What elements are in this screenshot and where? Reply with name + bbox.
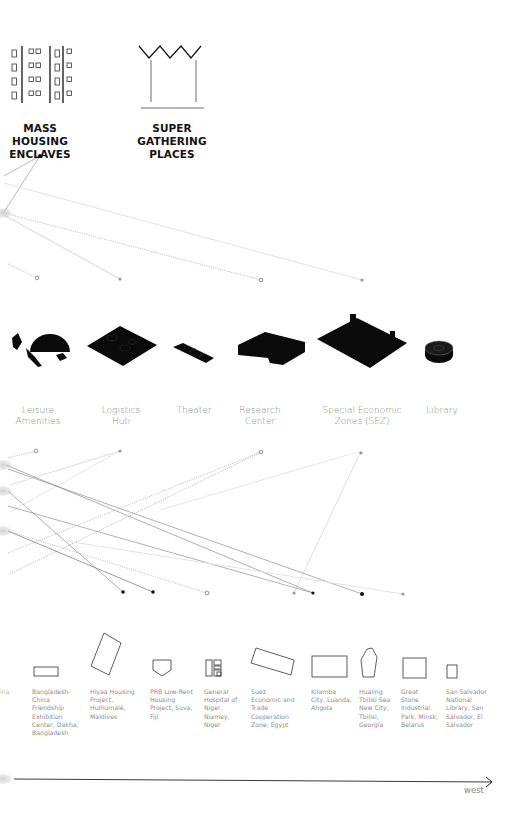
type-label-line: Hub <box>91 416 151 427</box>
project-label: ina <box>0 688 30 696</box>
category-title-line: ENCLAVES <box>0 148 86 161</box>
category-title-line: PLACES <box>116 148 228 161</box>
axis-label-west: west <box>464 785 484 795</box>
housing-block-icon <box>0 38 80 118</box>
project-label: San Salvador National Library, San Salva… <box>446 688 502 729</box>
type-label-sez: Special Economic Zones (SEZ) <box>316 405 408 427</box>
project-label: Suez Economic and Trade Cooperation Zone… <box>251 688 307 729</box>
lower-connectors <box>6 449 405 596</box>
type-label-research: Research Center <box>230 405 290 427</box>
project-label: Great Stone Industrial Park, Minsk, Bela… <box>401 688 445 729</box>
upper-connectors <box>4 154 364 282</box>
type-label-line: Amenities <box>8 416 68 427</box>
type-label-line: Library <box>412 405 472 416</box>
building-type-icons-row <box>0 300 508 380</box>
research-center-icon <box>238 332 305 365</box>
project-label: PRB Low-Rent Housing Project, Suva, Fiji <box>150 688 202 721</box>
category-title-line: SUPER GATHERING <box>116 122 228 148</box>
type-label-line: Leisure <box>8 405 68 416</box>
type-label-library: Library <box>412 405 472 416</box>
logistics-hub-icon <box>87 326 157 366</box>
type-label-line: Center <box>230 416 290 427</box>
theater-icon <box>173 343 214 363</box>
footprint-rotated-rectangle-icon <box>91 633 121 675</box>
sez-icon <box>317 314 407 368</box>
project-label: Hualing Tbilisi Sea New City, Tbilisi, G… <box>359 688 399 729</box>
type-label-line: Theater <box>164 405 224 416</box>
footprint-rectangle-flat-icon <box>34 667 58 676</box>
project-label: General Hospital of Niger, Niamey, Niger <box>204 688 250 729</box>
leisure-amenities-icon <box>12 333 70 367</box>
type-label-line: Research <box>230 405 290 416</box>
footprint-pentagon-icon <box>153 660 171 676</box>
type-label-theater: Theater <box>164 405 224 416</box>
footprint-polygon-icon <box>361 648 377 677</box>
type-label-line: Logistics <box>91 405 151 416</box>
gathering-crown-icon <box>134 38 214 118</box>
type-label-logistics: Logistics Hub <box>91 405 151 427</box>
project-label: Hiyaa Housing Project, Hulhumalé, Maldiv… <box>90 688 145 721</box>
footprint-square-icon <box>403 658 426 678</box>
type-label-leisure: Leisure Amenities <box>8 405 68 427</box>
library-icon <box>425 341 453 363</box>
west-axis-arrow <box>0 770 508 800</box>
type-label-line: Zones (SEZ) <box>316 416 408 427</box>
type-label-line: Special Economic <box>316 405 408 416</box>
category-title-mass-housing: MASS HOUSING ENCLAVES <box>0 122 86 161</box>
project-label: Bangladesh- China Friendship Exhibition … <box>32 688 87 737</box>
category-title-super-gathering: SUPER GATHERING PLACES <box>116 122 228 161</box>
category-title-line: MASS HOUSING <box>0 122 86 148</box>
footprint-hospital-icon <box>206 660 221 676</box>
footprint-tilted-rectangle-icon <box>251 648 294 675</box>
footprint-small-square-icon <box>447 665 457 678</box>
project-label: Kilamba City, Luanda, Angola <box>311 688 359 713</box>
footprint-rectangle-icon <box>312 656 347 677</box>
